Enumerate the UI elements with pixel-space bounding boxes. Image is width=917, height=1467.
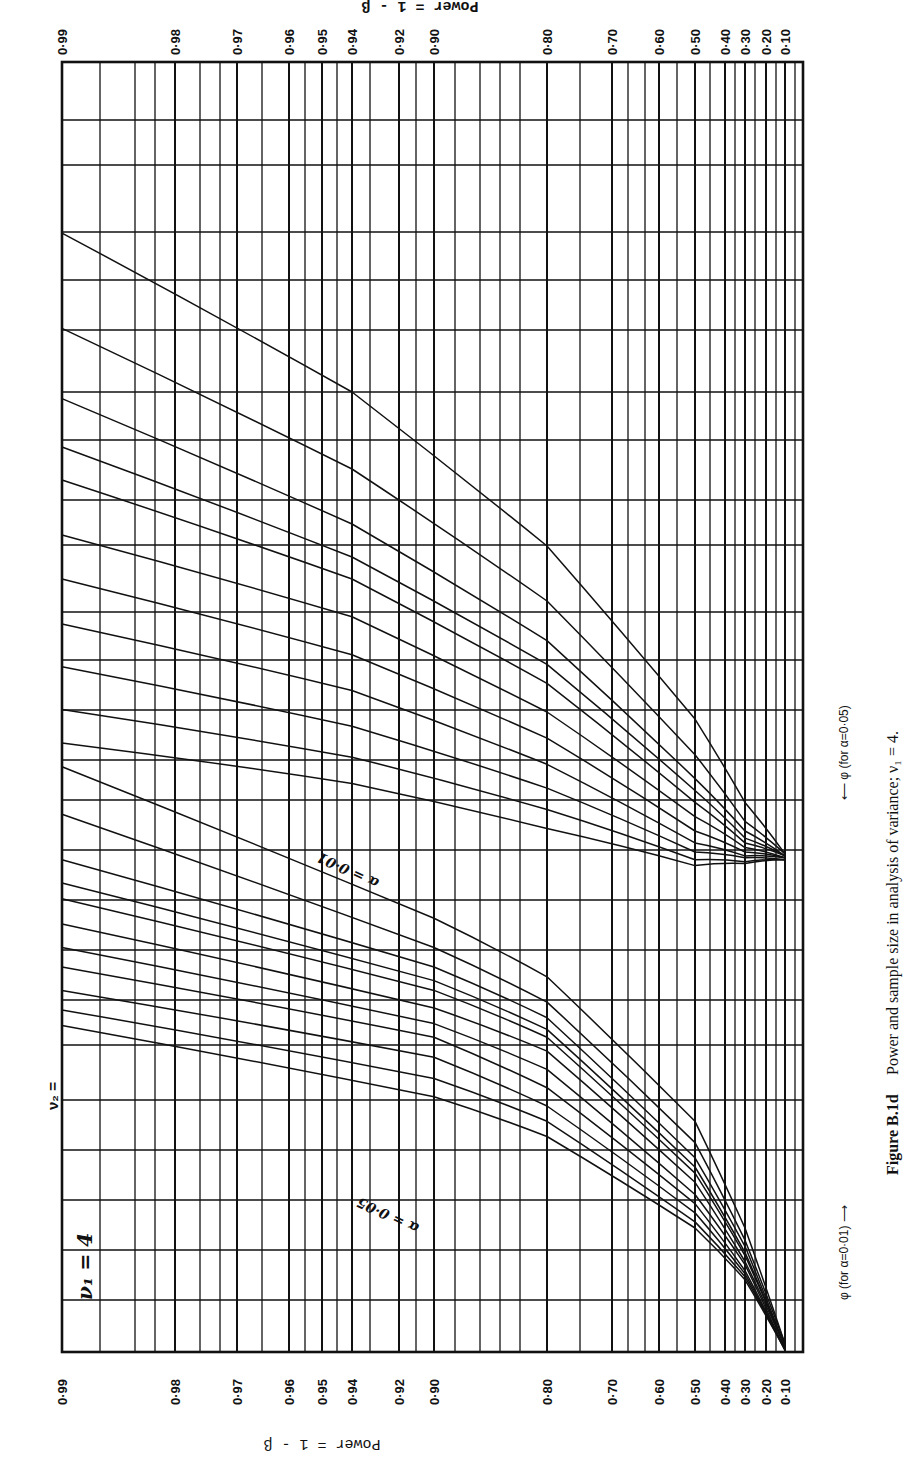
power-tick-label: 0·50 (688, 29, 703, 55)
power-tick-label: 0·10 (778, 1379, 793, 1405)
power-tick-label: 0·60 (652, 29, 667, 55)
power-tick-label: 0·90 (427, 29, 442, 55)
header-fragment: Power = 1 - β (361, 0, 478, 14)
power-tick-label: 0·99 (55, 1379, 70, 1405)
power-tick-label: 0·95 (315, 1379, 330, 1405)
power-tick-label: 0·97 (230, 29, 245, 55)
figure-caption: Figure B.1d Power and sample size in ana… (884, 731, 902, 1175)
power-tick-label: 0·80 (540, 1379, 555, 1405)
chart-grid (62, 62, 803, 1352)
power-tick-label: 0·96 (282, 29, 297, 55)
power-tick-label: 0·94 (345, 1378, 360, 1405)
power-chart: 0·990·980·970·960·950·940·920·900·800·70… (0, 0, 917, 1467)
power-tick-label: 0·80 (540, 29, 555, 55)
power-tick-label: 0·20 (759, 29, 774, 55)
power-tick-label: 0·98 (168, 29, 183, 55)
power-tick-label: 0·97 (230, 1379, 245, 1405)
chart-frame (62, 62, 803, 1352)
power-tick-label: 0·30 (738, 1379, 753, 1405)
phi-alpha01-label: φ (for α=0·01) ⟶ (837, 1205, 851, 1300)
power-axis-bottom: 0·990·980·970·960·950·940·920·900·800·70… (55, 1378, 793, 1405)
nu1-label: ν₁ = 4 (73, 1233, 97, 1300)
power-tick-label: 0·20 (759, 1379, 774, 1405)
power-tick-label: 0·96 (282, 1379, 297, 1405)
phi-alpha05-label: ⟵ φ (for α=0·05) (837, 705, 851, 800)
power-tick-label: 0·60 (652, 1379, 667, 1405)
power-tick-label: 0·94 (345, 28, 360, 55)
power-tick-label: 0·70 (605, 1379, 620, 1405)
power-tick-label: 0·40 (718, 29, 733, 55)
power-tick-label: 0·92 (392, 1379, 407, 1405)
caption-label: Figure B.1d (884, 1094, 902, 1175)
alpha01-tag: α = 0·01 (314, 849, 381, 892)
power-tick-label: 0·30 (738, 29, 753, 55)
nu2-prefix: ν₂ = (44, 1082, 61, 1110)
power-tick-label: 0·92 (392, 29, 407, 55)
power-axis-top: 0·990·980·970·960·950·940·920·900·800·70… (55, 28, 793, 55)
caption-text: Power and sample size in analysis of var… (884, 731, 902, 1075)
power-tick-label: 0·50 (688, 1379, 703, 1405)
power-tick-label: 0·10 (778, 29, 793, 55)
power-tick-label: 0·95 (315, 29, 330, 55)
power-tick-label: 0·99 (55, 29, 70, 55)
power-tick-label: 0·90 (427, 1379, 442, 1405)
power-tick-label: 0·40 (718, 1379, 733, 1405)
power-tick-label: 0·98 (168, 1379, 183, 1405)
power-tick-label: 0·70 (605, 29, 620, 55)
power-axis-title: Power = 1 - β (263, 1435, 380, 1452)
